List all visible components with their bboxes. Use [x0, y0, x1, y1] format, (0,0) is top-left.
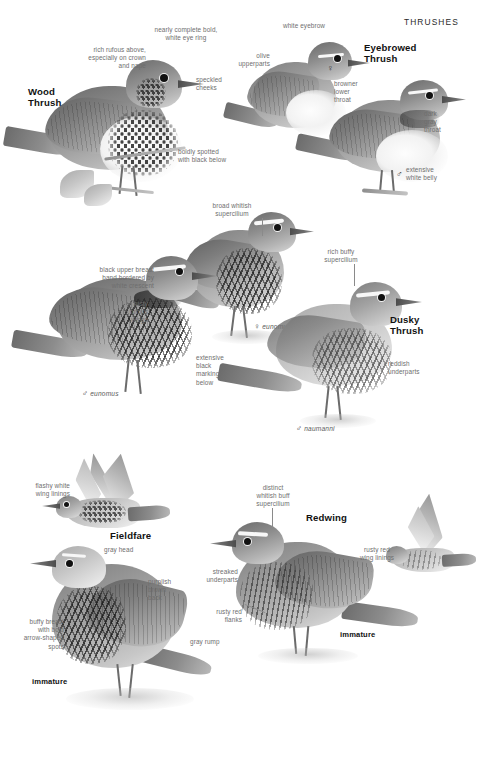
annotation-et-eyebrow: white eyebrow	[268, 22, 340, 30]
annotation-et-olive: olive upperparts	[226, 52, 270, 68]
annotation-dt-wings: rusty rufous wings	[96, 300, 148, 325]
speckled-cheek	[136, 78, 166, 108]
leader-line-rw-supercilium	[272, 508, 273, 528]
sex-symbol-male: ♂	[82, 389, 90, 398]
ground-snow	[66, 688, 194, 710]
subspecies-label-male-eunomus: ♂eunomus	[82, 389, 119, 398]
eye	[176, 268, 183, 275]
perch-branch	[362, 188, 408, 195]
eye	[274, 224, 281, 231]
sex-symbol-male-eyebrowed: ♂	[396, 170, 403, 179]
annotation-dt-breastband: black upper breast band bordered by whit…	[62, 266, 154, 291]
leader-line-buffy-supercilium	[354, 264, 355, 286]
streaked-underparts	[240, 562, 314, 630]
eye	[334, 55, 341, 62]
subspecies-name: naumanni	[304, 425, 335, 432]
species-name-line1: Dusky	[390, 314, 420, 325]
species-name-dusky-thrush: DuskyThrush	[390, 314, 470, 336]
annotation-ff-grayhead: gray head	[104, 546, 156, 554]
arrow-shaped-breast-spots	[56, 586, 126, 664]
age-label-redwing-immature: immature	[340, 630, 375, 639]
species-name-wood-thrush: WoodThrush	[28, 86, 98, 108]
bird-illustration-dusky-thrush-male-naumanni	[246, 278, 446, 428]
leg-back	[124, 360, 129, 392]
annotation-et-dark-gray-throat: dark gray throat	[424, 110, 468, 135]
eye	[426, 92, 433, 99]
tail	[442, 553, 477, 567]
tail	[128, 505, 171, 522]
age-label-fieldfare-immature: immature	[32, 677, 67, 686]
eye	[64, 502, 69, 507]
field-guide-page: THRUSHES WoodThrush nearly complete bold…	[0, 0, 480, 762]
eye	[66, 560, 73, 567]
species-name-line2: Thrush	[364, 53, 397, 64]
species-name-line1: Eyebrowed	[364, 42, 417, 53]
breast-spots	[78, 500, 126, 524]
annotation-ff-breast: buffy breast with bold arrow-shaped spot…	[0, 618, 64, 651]
annotation-rw-winglinings: rusty red wing linings	[346, 546, 408, 562]
eye	[160, 74, 168, 82]
breast-spots	[108, 110, 178, 176]
annotation-rw-supercilium: distinct whitish buff supercilium	[240, 484, 306, 509]
ground-shadow	[258, 648, 358, 664]
eye	[244, 538, 251, 545]
head	[308, 42, 352, 80]
species-name-eyebrowed-thrush: EyebrowedThrush	[364, 42, 474, 64]
bird-illustration-wood-thrush	[8, 48, 198, 208]
annotation-dt-reddish: reddish underparts	[388, 360, 444, 376]
species-name-line2: Thrush	[28, 97, 61, 108]
gray-head	[52, 546, 106, 588]
annotation-et-white-belly: extensive white belly	[406, 166, 468, 182]
sex-symbol-female-eyebrowed: ♀	[327, 64, 334, 73]
subspecies-name: eunomus	[90, 390, 119, 397]
sex-symbol-male: ♂	[296, 424, 304, 433]
annotation-wt-eyering: nearly complete bold, white eye ring	[140, 26, 232, 42]
annotation-dt-buffy: rich buffy supercilium	[308, 248, 374, 264]
annotation-dt-supercilium: broad whitish supercilium	[196, 202, 268, 218]
species-name-redwing: Redwing	[306, 512, 386, 523]
page-header-thrushes: THRUSHES	[404, 17, 459, 27]
head	[232, 522, 284, 564]
annotation-rw-flanks: rusty red flanks	[194, 608, 242, 624]
eye	[378, 294, 385, 301]
annotation-wt-rufous: rich rufous above, especially on crown a…	[58, 46, 146, 71]
leaf-2	[84, 184, 112, 206]
reddish-underparts-markings	[312, 328, 392, 394]
species-name-line1: Wood	[28, 86, 55, 97]
leader-line-supercilium	[262, 218, 263, 236]
subspecies-label-male-naumanni: ♂naumanni	[296, 424, 335, 433]
annotation-ff-winglinings: flashy white wing linings	[8, 482, 70, 498]
tail	[341, 601, 419, 629]
species-name-line2: Thrush	[390, 325, 423, 336]
annotation-rw-streaked: streaked underparts	[182, 568, 238, 584]
